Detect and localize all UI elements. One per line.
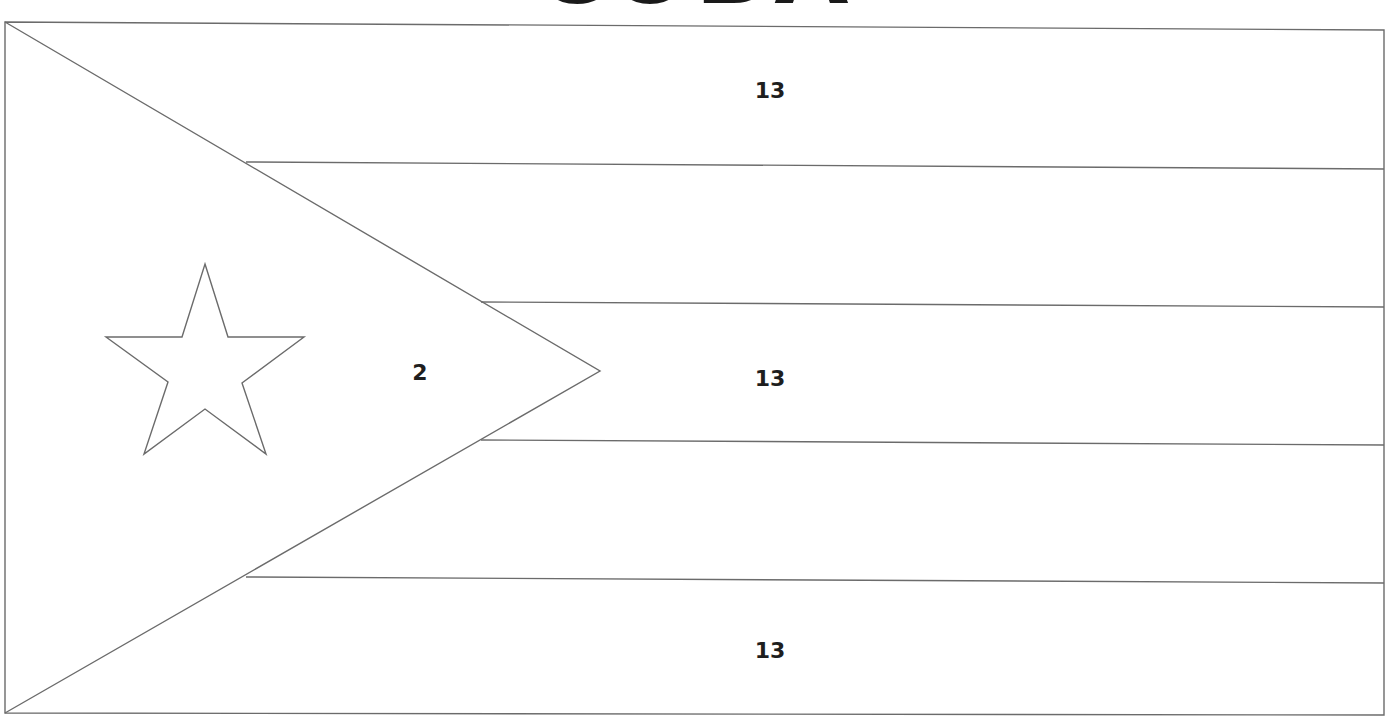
cuba-flag-outline: 13 13 13 2 <box>0 0 1389 727</box>
stripe-middle-region[interactable] <box>481 302 1384 445</box>
stripe-bottom-region[interactable] <box>5 577 1384 715</box>
label-bottom-stripe: 13 <box>755 638 786 663</box>
label-triangle: 2 <box>412 360 427 385</box>
label-top-stripe: 13 <box>755 78 786 103</box>
label-middle-stripe: 13 <box>755 366 786 391</box>
